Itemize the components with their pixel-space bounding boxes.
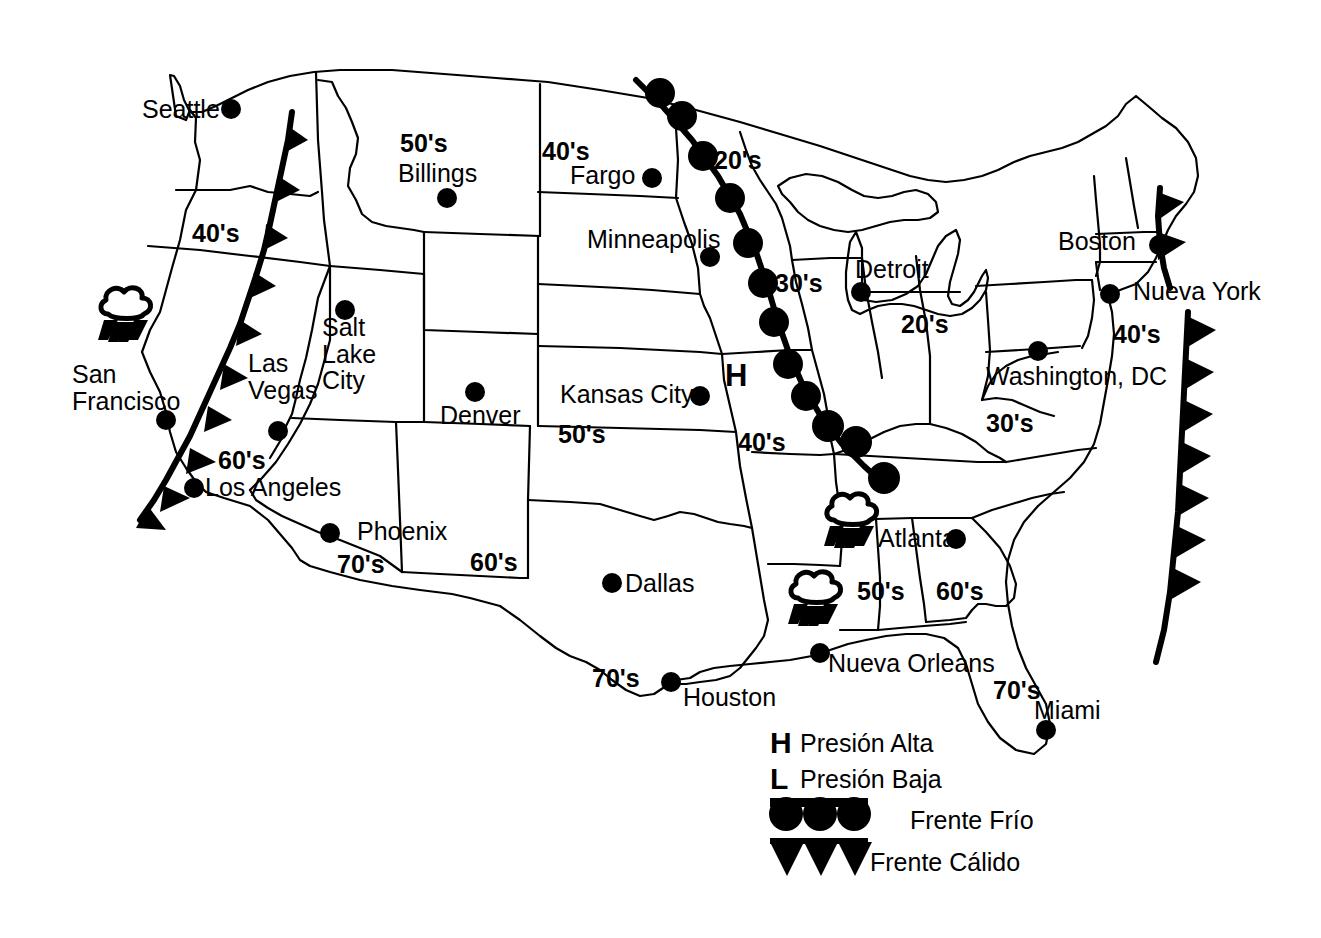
cold-front-bump bbox=[748, 268, 778, 298]
legend-item-high-pressure: H Presión Alta bbox=[770, 726, 933, 760]
temperature-label: 50's bbox=[400, 130, 448, 156]
weather-map-page: 50's40's20's40's30's20's40's30's50's40's… bbox=[0, 0, 1321, 938]
city-label: Minneapolis bbox=[587, 226, 720, 252]
temperature-label: 60's bbox=[936, 578, 984, 604]
warm-front-triangle bbox=[1183, 400, 1213, 432]
city-label: Denver bbox=[440, 402, 521, 428]
temperature-label: 40's bbox=[738, 429, 786, 455]
legend-item-cold-front: Frente Frío bbox=[910, 806, 1034, 835]
cloud-shape bbox=[101, 288, 151, 319]
city-label: Billings bbox=[398, 160, 477, 186]
city-label: Boston bbox=[1058, 228, 1136, 254]
temperature-label: 70's bbox=[592, 665, 640, 691]
city-label: Detroit bbox=[855, 256, 929, 282]
cold-front-bump bbox=[812, 410, 844, 442]
city-label: Washington, DC bbox=[986, 363, 1167, 389]
city-dot bbox=[465, 382, 485, 402]
city-label: Dallas bbox=[625, 570, 694, 596]
map-legend: H Presión Alta L Presión Baja Frente Frí… bbox=[762, 726, 1222, 886]
warm-front-triangle bbox=[1181, 442, 1211, 474]
city-label: Houston bbox=[683, 684, 776, 710]
city-dot bbox=[810, 643, 830, 663]
city-dot bbox=[642, 168, 662, 188]
cold-front-bump bbox=[773, 349, 803, 379]
legend-label-low-pressure: Presión Baja bbox=[800, 765, 942, 794]
city-label: Miami bbox=[1034, 697, 1101, 723]
temperature-label: 20's bbox=[901, 311, 949, 337]
cold-front-bump bbox=[840, 426, 872, 458]
city-label: Nueva York bbox=[1133, 278, 1261, 304]
storm-symbol-san-francisco bbox=[98, 288, 151, 342]
temperature-label: 30's bbox=[986, 410, 1034, 436]
city-label: Phoenix bbox=[357, 518, 447, 544]
legend-label-high-pressure: Presión Alta bbox=[800, 729, 933, 758]
city-label: Atlanta bbox=[878, 525, 956, 551]
temperature-label: 50's bbox=[857, 578, 905, 604]
warm-front-triangle bbox=[1178, 484, 1209, 516]
legend-item-low-pressure: L Presión Baja bbox=[770, 762, 942, 796]
city-dot bbox=[661, 672, 681, 692]
temperature-label: 20's bbox=[714, 147, 762, 173]
warm-front-triangle bbox=[1186, 316, 1216, 348]
warm-front-triangle bbox=[1175, 526, 1206, 558]
temperature-label: 70's bbox=[337, 551, 385, 577]
high-pressure-icon: H bbox=[770, 726, 800, 760]
city-label: SaltLakeCity bbox=[322, 314, 376, 394]
temperature-label: 50's bbox=[558, 421, 606, 447]
city-dot bbox=[437, 188, 457, 208]
city-label: Fargo bbox=[570, 162, 635, 188]
city-dot bbox=[221, 99, 241, 119]
temperature-label: 30's bbox=[775, 270, 823, 296]
us-outline-group bbox=[142, 70, 1198, 754]
legend-label-cold-front: Frente Frío bbox=[910, 806, 1034, 835]
city-dot bbox=[1100, 284, 1120, 304]
cloud-shape bbox=[791, 572, 841, 603]
city-dot bbox=[268, 421, 288, 441]
cold-front-bump bbox=[759, 307, 789, 337]
legend-label-warm-front: Frente Cálido bbox=[870, 848, 1020, 877]
cold-front-bump bbox=[868, 462, 900, 494]
city-label: Los Angeles bbox=[205, 474, 341, 500]
low-pressure-icon: L bbox=[770, 762, 800, 796]
city-label: Nueva Orleans bbox=[828, 650, 995, 676]
cold-front-bump bbox=[733, 228, 763, 258]
city-dot bbox=[320, 523, 340, 543]
city-label: LasVegas bbox=[248, 350, 318, 403]
high-pressure-marker: H bbox=[725, 360, 747, 392]
city-label: Seattle bbox=[142, 96, 220, 122]
temperature-label: 40's bbox=[1113, 321, 1161, 347]
cold-front-bump bbox=[715, 183, 745, 213]
warm-front-triangle bbox=[1184, 358, 1214, 390]
city-dot bbox=[1149, 235, 1169, 255]
temperature-label: 60's bbox=[470, 549, 518, 575]
city-dot bbox=[184, 478, 204, 498]
city-label: Kansas City bbox=[560, 381, 693, 407]
city-label: SanFrancisco bbox=[72, 361, 180, 414]
cold-front-bump bbox=[645, 78, 675, 108]
cloud-shape bbox=[827, 494, 877, 525]
warm-front-triangle bbox=[1170, 568, 1201, 600]
cold-front-bump bbox=[791, 381, 821, 411]
city-dot bbox=[1028, 341, 1048, 361]
temperature-label: 40's bbox=[192, 220, 240, 246]
city-dot bbox=[602, 573, 622, 593]
rain-streaks bbox=[98, 320, 148, 342]
city-dot bbox=[851, 282, 871, 302]
temperature-label: 60's bbox=[218, 447, 266, 473]
legend-item-warm-front: Frente Cálido bbox=[870, 848, 1020, 877]
cold-front-bump bbox=[667, 101, 697, 131]
